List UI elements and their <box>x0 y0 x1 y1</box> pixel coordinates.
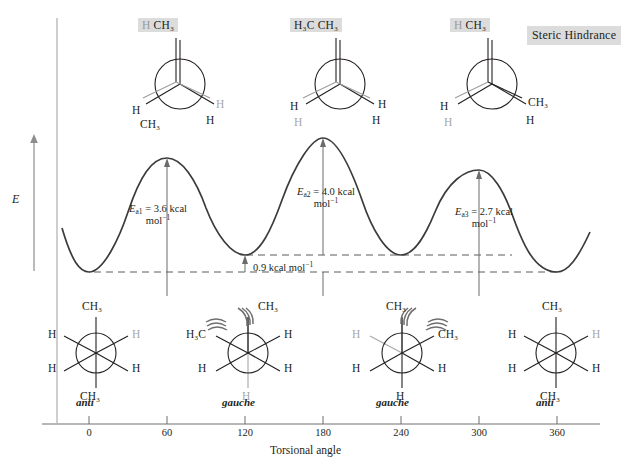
staggered-120-skeleton <box>196 314 306 392</box>
staggered-0-skeleton <box>48 314 144 392</box>
ea3-unit: mol <box>472 218 488 229</box>
staggered-240-lower-left-label: H <box>352 362 360 374</box>
x-axis-label: Torsional angle <box>270 444 341 456</box>
staggered-newman-360: CH₃ H H H H CH₃ <box>508 300 604 412</box>
x-tick-0: 0 <box>74 427 104 438</box>
staggered-120-top-label: CH₃ <box>258 300 278 312</box>
ea1-exp: −1 <box>162 213 170 222</box>
ea2-sub: a2 <box>303 190 310 199</box>
staggered-240-upper-right-label: CH₃ <box>438 328 458 340</box>
staggered-newman-0: CH₃ H H H H CH₃ <box>48 300 144 412</box>
ea1-unit: mol <box>146 215 162 226</box>
staggered-360-skeleton <box>508 314 604 392</box>
staggered-120-lower-left-label: H <box>198 362 206 374</box>
staggered-120-upper-left-label: H₃C <box>186 328 206 340</box>
ea3-sub: a3 <box>461 210 468 219</box>
x-tick-240: 240 <box>386 427 416 438</box>
staggered-0-top-label: CH₃ <box>82 300 102 312</box>
conformer-name-gauche-120: gauche <box>222 396 255 408</box>
ea3-label: Ea3 = 2.7 kcal mol−1 <box>424 206 544 230</box>
staggered-360-upper-right-label: H <box>592 328 600 340</box>
steric-arc-top <box>238 308 253 326</box>
staggered-120-upper-right-label: H <box>284 328 292 340</box>
staggered-240-lower-right-label: H <box>438 362 446 374</box>
staggered-360-lower-left-label: H <box>508 362 516 374</box>
ea2-exp: −1 <box>330 196 338 205</box>
ea2-label: Ea2 = 4.0 kcal mol−1 <box>266 186 386 210</box>
ea2-unit: mol <box>314 198 330 209</box>
gauche-gap-arrow <box>242 255 248 272</box>
conformer-name-gauche-240: gauche <box>376 396 409 408</box>
staggered-0-upper-left-label: H <box>48 328 56 340</box>
figure-canvas: E H CH₃ H CH₃ H H H₃C CH₃ <box>0 0 634 463</box>
conformer-name-anti-0: anti <box>76 396 94 408</box>
staggered-360-upper-left-label: H <box>508 328 516 340</box>
x-tick-120: 120 <box>230 427 260 438</box>
x-tick-360: 360 <box>542 427 572 438</box>
x-tick-60: 60 <box>152 427 182 438</box>
ea1-sub: a1 <box>135 207 142 216</box>
ea3-exp: −1 <box>488 216 496 225</box>
steric-arc-left <box>206 319 227 330</box>
staggered-240-upper-left-label: H <box>352 328 360 340</box>
ea1-label: Ea1 = 3.6 kcal mol−1 <box>98 203 218 227</box>
staggered-360-top-label: CH₃ <box>542 300 562 312</box>
staggered-360-lower-right-label: H <box>592 362 600 374</box>
staggered-240-top-label: CH₃ <box>386 300 406 312</box>
conformer-name-anti-360: anti <box>536 396 554 408</box>
staggered-0-upper-right-label: H <box>132 328 140 340</box>
x-tick-180: 180 <box>308 427 338 438</box>
staggered-0-lower-right-label: H <box>132 362 140 374</box>
staggered-240-skeleton <box>350 314 460 392</box>
gauche-gap-exp: −1 <box>305 260 313 269</box>
gauche-gap-label: 0.9 kcal mol−1 <box>253 262 313 273</box>
staggered-120-lower-right-label: H <box>284 362 292 374</box>
staggered-0-lower-left-label: H <box>48 362 56 374</box>
gauche-gap-text: 0.9 kcal mol <box>253 262 305 273</box>
x-tick-300: 300 <box>464 427 494 438</box>
